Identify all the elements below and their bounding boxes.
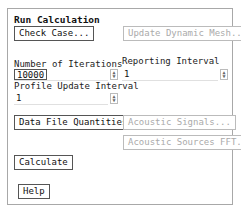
iterations-input[interactable]: 10000 xyxy=(14,69,47,80)
iterations-label: Number of Iterations xyxy=(14,59,122,69)
panel-title: Run Calculation xyxy=(14,14,100,25)
check-case-button[interactable]: Check Case... xyxy=(14,26,94,41)
help-button[interactable]: Help xyxy=(18,184,50,199)
profile-update-interval-input[interactable]: 1 xyxy=(14,93,23,104)
reporting-interval-label: Reporting Interval xyxy=(122,56,220,66)
spinner-arrows-icon[interactable]: ▲▼ xyxy=(110,69,118,80)
reporting-interval-spinner[interactable]: 1 ▲▼ xyxy=(122,69,228,80)
acoustic-sources-fft-button[interactable]: Acoustic Sources FFT... xyxy=(123,135,241,150)
iterations-spinner[interactable]: 10000 ▲▼ xyxy=(14,69,118,80)
profile-update-interval-label: Profile Update Interval xyxy=(14,81,139,91)
acoustic-signals-button[interactable]: Acoustic Signals... xyxy=(123,115,236,130)
calculate-button[interactable]: Calculate xyxy=(14,155,73,170)
spinner-arrows-icon[interactable]: ▲▼ xyxy=(110,93,118,104)
update-dynamic-mesh-button[interactable]: Update Dynamic Mesh... xyxy=(123,26,241,41)
run-calculation-panel: Run Calculation Check Case... Update Dyn… xyxy=(7,8,233,205)
profile-update-interval-spinner[interactable]: 1 ▲▼ xyxy=(14,93,118,104)
spinner-arrows-icon[interactable]: ▲▼ xyxy=(220,69,228,80)
reporting-interval-input[interactable]: 1 xyxy=(122,69,131,80)
